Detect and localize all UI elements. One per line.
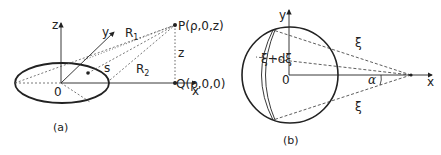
height-z-label: z	[178, 46, 184, 60]
alpha-label: α	[368, 73, 376, 87]
ray-xi-bottom	[273, 75, 411, 120]
y-axis-label: y	[102, 25, 109, 39]
point-p	[173, 23, 177, 27]
point-source	[86, 71, 90, 75]
dashed-line	[61, 83, 90, 102]
caption-b: (b)	[283, 134, 299, 147]
apex-point	[409, 73, 412, 76]
caption-a: (a)	[53, 121, 68, 134]
svg-text:R2: R2	[136, 62, 149, 78]
panel-b: y x 0 ξ+dξ ξ ξ α (b)	[242, 8, 434, 147]
origin-label-b: 0	[282, 73, 290, 87]
z-axis-label: z	[52, 18, 58, 32]
figure-canvas: z y x 0 P(ρ,0,z) Q(ρ,0,0) z s R1 R2 (a)	[0, 0, 441, 155]
xi-dxi-label: ξ+dξ	[261, 52, 292, 66]
alpha-arc	[380, 75, 381, 85]
point-q-label: Q(ρ,0,0)	[176, 77, 225, 91]
y-axis-label-b: y	[279, 8, 286, 22]
r2-label: R2	[136, 62, 149, 78]
origin-label: 0	[54, 85, 62, 99]
svg-text:R1: R1	[125, 26, 138, 42]
ray-xi-top	[273, 30, 411, 75]
xi-bottom-label: ξ	[355, 100, 362, 114]
r1-label: R1	[125, 26, 138, 42]
point-p-label: P(ρ,0,z)	[178, 19, 224, 33]
ring-arc-outer	[262, 30, 274, 120]
dashed-line-r1	[15, 25, 175, 83]
panel-a: z y x 0 P(ρ,0,z) Q(ρ,0,0) z s R1 R2 (a)	[15, 18, 225, 134]
distance-s-label: s	[104, 61, 110, 75]
x-axis-label-b: x	[427, 75, 434, 89]
xi-top-label: ξ	[355, 36, 362, 50]
